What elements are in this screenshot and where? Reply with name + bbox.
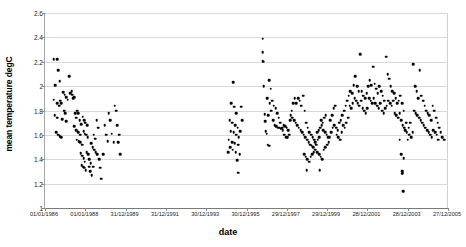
data-point <box>86 124 89 127</box>
data-point <box>348 95 351 98</box>
data-point <box>90 142 93 145</box>
data-point <box>262 60 265 63</box>
data-point <box>364 112 367 115</box>
data-point <box>80 123 83 126</box>
data-point <box>329 119 332 122</box>
data-point <box>53 58 56 61</box>
data-point <box>431 104 434 107</box>
data-point <box>373 97 376 100</box>
y-tick-label: 1.6 <box>17 131 43 138</box>
data-point <box>435 117 438 120</box>
data-point <box>360 90 363 93</box>
data-point <box>61 118 64 121</box>
data-point <box>371 102 374 105</box>
data-point <box>227 151 230 154</box>
data-point <box>399 95 402 98</box>
data-point <box>439 131 442 134</box>
data-point <box>431 136 434 139</box>
data-point <box>287 129 290 132</box>
data-point <box>398 138 401 141</box>
data-point <box>366 107 369 110</box>
gridline <box>45 86 448 87</box>
data-point <box>360 99 363 102</box>
data-point <box>405 121 408 124</box>
data-point <box>70 90 73 93</box>
data-point <box>430 119 433 122</box>
data-point <box>84 169 87 172</box>
data-point <box>239 130 242 133</box>
data-point <box>88 158 91 161</box>
data-point <box>240 106 243 109</box>
data-point <box>237 171 240 174</box>
data-point <box>346 99 349 102</box>
data-point <box>89 162 92 165</box>
data-point <box>230 102 233 105</box>
data-point <box>119 153 122 156</box>
data-point <box>316 131 319 134</box>
data-point <box>388 78 391 81</box>
data-point <box>115 109 118 112</box>
x-axis-title: date <box>0 227 456 237</box>
data-point <box>411 131 414 134</box>
data-point <box>339 119 342 122</box>
data-point <box>389 85 392 88</box>
data-point <box>261 37 264 40</box>
data-point <box>332 107 335 110</box>
data-point <box>111 132 114 135</box>
data-point <box>357 90 360 93</box>
data-point <box>300 104 303 107</box>
data-point <box>81 143 84 146</box>
data-point <box>232 81 235 84</box>
data-point <box>328 136 331 139</box>
gridline <box>45 13 448 14</box>
data-point <box>281 129 284 132</box>
data-point <box>385 104 388 107</box>
data-point <box>401 173 404 176</box>
data-point <box>345 121 348 124</box>
data-point <box>392 99 395 102</box>
data-point <box>318 136 321 139</box>
data-point <box>409 121 412 124</box>
data-point <box>105 134 108 137</box>
data-point <box>236 159 239 162</box>
data-point <box>66 98 69 101</box>
data-point <box>233 106 236 109</box>
data-point <box>369 79 372 82</box>
data-point <box>306 126 309 129</box>
y-tick-label: 2 <box>17 83 43 90</box>
data-point <box>269 87 272 90</box>
data-point <box>437 138 440 141</box>
data-point <box>73 125 76 128</box>
data-point <box>57 69 60 72</box>
data-point <box>428 114 431 117</box>
y-tick-mark <box>42 86 45 87</box>
data-point <box>305 169 308 172</box>
plot-area <box>44 13 448 209</box>
data-point <box>325 114 328 117</box>
data-point <box>321 158 324 161</box>
data-point <box>375 87 378 90</box>
data-point <box>89 170 92 173</box>
data-point <box>241 119 244 122</box>
data-point <box>64 112 67 115</box>
data-point <box>372 65 375 68</box>
data-point <box>234 151 237 154</box>
data-point <box>410 136 413 139</box>
data-point <box>78 119 81 122</box>
data-point <box>75 117 78 120</box>
data-point <box>261 51 264 54</box>
data-point <box>390 104 393 107</box>
data-point <box>309 156 312 159</box>
data-point <box>384 107 387 110</box>
data-point <box>414 85 417 88</box>
data-point <box>118 134 121 137</box>
data-point <box>378 85 381 88</box>
data-point <box>77 112 80 115</box>
data-point <box>235 112 238 115</box>
data-point <box>347 117 350 120</box>
data-point <box>417 97 420 100</box>
data-point <box>95 119 98 122</box>
data-point <box>379 102 382 105</box>
data-point <box>323 148 326 151</box>
data-point <box>364 97 367 100</box>
